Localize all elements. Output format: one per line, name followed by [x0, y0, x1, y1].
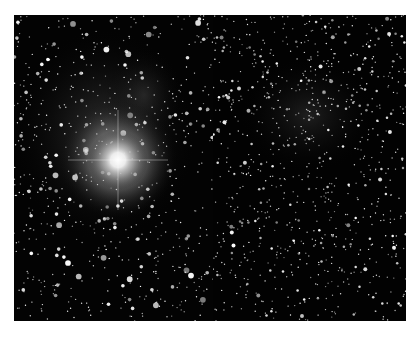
right-panel-star-field — [213, 15, 406, 321]
right-starfield-image — [213, 15, 406, 321]
left-starfield-image — [14, 15, 213, 321]
left-panel-star-field — [14, 15, 213, 321]
star-field-figure — [14, 15, 406, 321]
